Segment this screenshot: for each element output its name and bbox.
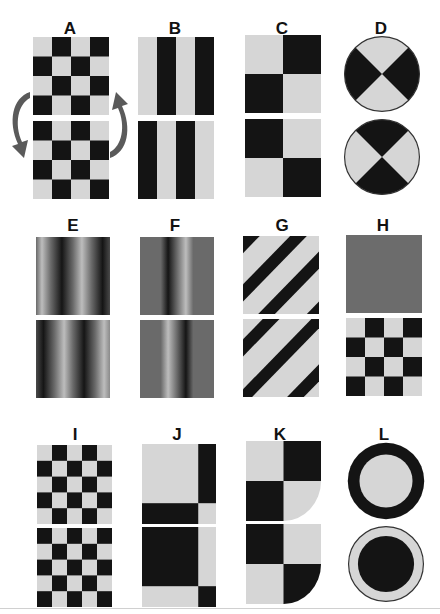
panel-b-bottom (138, 121, 214, 199)
panel-h-bottom (346, 318, 422, 396)
label-g: G (242, 217, 322, 235)
panel-a-bottom (33, 121, 109, 199)
bottom-rule (0, 608, 440, 609)
panel-l-top (347, 442, 425, 520)
label-e: E (33, 217, 113, 235)
panel-e-bottom (36, 320, 110, 398)
panel-c-bottom (245, 119, 321, 197)
swap-arrow-left-icon (4, 88, 32, 160)
swap-arrow-right-icon (108, 90, 136, 162)
panel-j-bottom (142, 527, 216, 607)
panel-h-top (346, 235, 422, 313)
panel-d-top (343, 35, 421, 113)
panel-k-bottom (246, 524, 321, 604)
panel-g-bottom (243, 319, 319, 397)
panel-j-top (142, 444, 216, 524)
label-h: H (343, 217, 423, 235)
label-j: J (137, 426, 217, 444)
panel-g-top (243, 236, 319, 314)
panel-f-bottom (140, 320, 214, 398)
label-b: B (135, 20, 215, 38)
panel-a-top (33, 37, 109, 115)
label-i: I (35, 426, 115, 444)
label-f: F (135, 217, 215, 235)
panel-c-top (245, 35, 321, 113)
panel-i-top (37, 445, 112, 524)
panel-k-top (246, 441, 321, 521)
panel-f-top (140, 237, 214, 315)
panel-i-bottom (37, 528, 112, 607)
panel-b-top (138, 37, 214, 115)
label-a: A (30, 20, 110, 38)
panel-e-top (36, 237, 110, 315)
panel-d-bottom (343, 118, 421, 196)
panel-l-bottom (347, 525, 425, 603)
